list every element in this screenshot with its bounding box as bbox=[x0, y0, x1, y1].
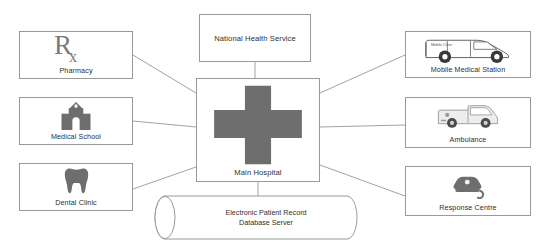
school-building-icon bbox=[20, 98, 132, 132]
node-database-server[interactable]: Electronic Patient Record Database Serve… bbox=[147, 195, 369, 240]
node-dental-clinic[interactable]: Dental Clinic bbox=[19, 163, 133, 211]
connector-pharmacy-to-hospital bbox=[133, 55, 196, 93]
node-label: Medical School bbox=[51, 132, 101, 144]
van-icon: Mobile Clinic bbox=[406, 32, 530, 65]
connector-dental-clinic-to-hospital bbox=[133, 167, 196, 189]
node-main-hospital[interactable]: Main Hospital bbox=[196, 78, 320, 182]
node-label: Pharmacy bbox=[59, 66, 92, 78]
node-national-health-service[interactable]: National Health Service bbox=[199, 14, 311, 62]
node-ambulance[interactable]: Ambulance bbox=[405, 97, 531, 148]
node-response-centre[interactable]: Response Centre bbox=[405, 166, 531, 216]
node-label: Mobile Medical Station bbox=[431, 65, 506, 77]
node-label: Ambulance bbox=[450, 135, 487, 147]
node-label: Electronic Patient Record Database Serve… bbox=[147, 195, 369, 240]
rx-prescription-icon: R x bbox=[20, 30, 132, 66]
node-pharmacy[interactable]: R x Pharmacy bbox=[19, 31, 133, 79]
medical-cross-icon bbox=[197, 79, 319, 168]
connector-medical-school-to-hospital bbox=[133, 121, 196, 127]
van-side-label: Mobile Clinic bbox=[431, 43, 453, 47]
node-label: National Health Service bbox=[214, 34, 296, 43]
node-label: Dental Clinic bbox=[55, 198, 97, 210]
tooth-icon bbox=[20, 164, 132, 198]
node-medical-school[interactable]: Medical School bbox=[19, 97, 133, 145]
node-label: Main Hospital bbox=[234, 168, 281, 181]
connector-hospital-to-mobile bbox=[320, 55, 405, 93]
telephone-icon bbox=[406, 167, 530, 203]
node-label: Response Centre bbox=[439, 203, 496, 215]
connector-hospital-to-response bbox=[320, 165, 405, 196]
connector-hospital-to-ambulance bbox=[320, 125, 405, 127]
ambulance-icon bbox=[406, 98, 530, 135]
node-mobile-medical-station[interactable]: Mobile Clinic Mobile Medical Station bbox=[405, 31, 531, 78]
svg-text:x: x bbox=[69, 48, 77, 65]
